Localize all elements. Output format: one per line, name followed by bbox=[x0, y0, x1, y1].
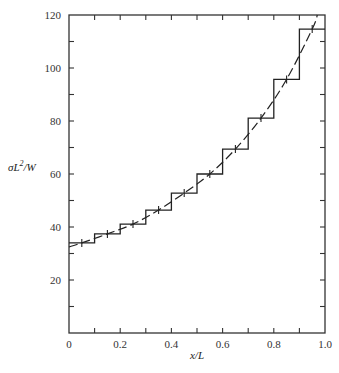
step-series bbox=[69, 25, 325, 247]
dashed-curve-series bbox=[69, 15, 317, 247]
y-tick-label: 120 bbox=[45, 9, 62, 21]
y-tick-label: 60 bbox=[50, 168, 62, 180]
y-axis-title-tail: /W bbox=[23, 161, 37, 173]
x-tick-label: 0 bbox=[66, 338, 72, 350]
x-tick-label: 0.6 bbox=[216, 338, 230, 350]
y-axis-title-base: σL bbox=[8, 161, 20, 173]
x-tick-label: 0.2 bbox=[113, 338, 127, 350]
y-tick-label: 80 bbox=[50, 115, 62, 127]
dashed-curve bbox=[69, 15, 317, 247]
x-tick-label: 0.8 bbox=[267, 338, 281, 350]
y-tick-label: 20 bbox=[50, 274, 62, 286]
step-line bbox=[69, 29, 325, 243]
y-axis-title: σL2/W bbox=[8, 159, 37, 173]
y-tick-label: 100 bbox=[45, 62, 62, 74]
x-tick-label: 0.4 bbox=[165, 338, 179, 350]
x-axis-title: x/L bbox=[189, 349, 204, 361]
axis-tick-labels: 00.20.40.60.81.020406080100120 bbox=[45, 9, 333, 350]
y-tick-label: 40 bbox=[50, 221, 62, 233]
chart: 00.20.40.60.81.020406080100120 x/L σL2/W bbox=[0, 0, 339, 373]
x-tick-label: 1.0 bbox=[318, 338, 332, 350]
